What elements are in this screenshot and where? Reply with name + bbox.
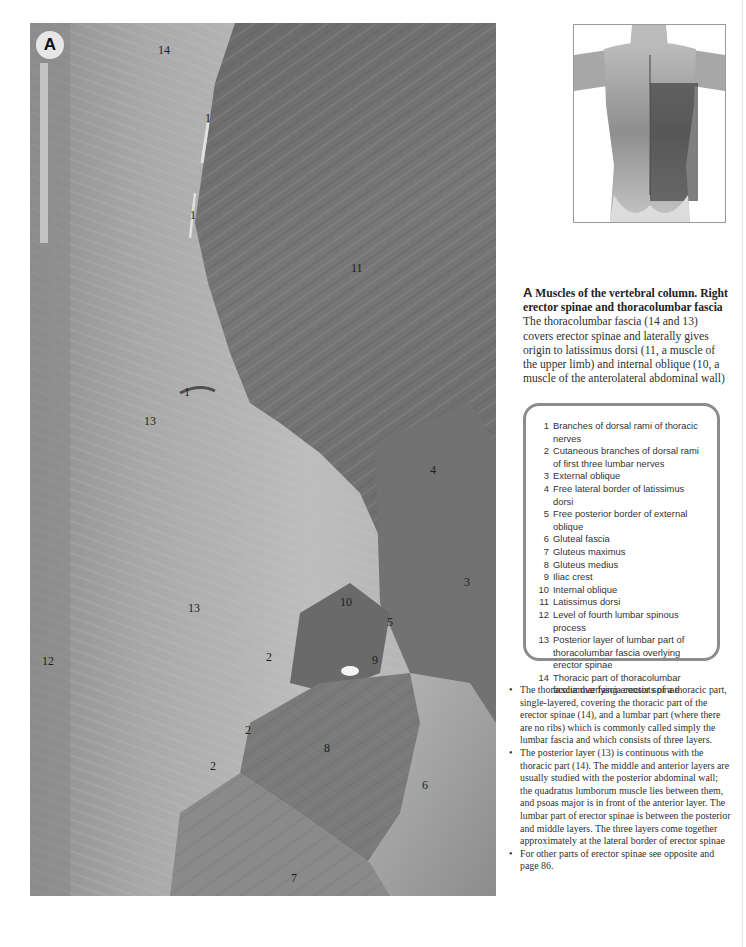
bullet-icon: • [509,684,513,697]
legend-item: 6Gluteal fascia [536,533,707,546]
notes-list: •The thoracolumbar fascia consists of a … [509,684,731,873]
label-1-b: 1 [190,209,196,221]
note-text: The posterior layer (13) is continuous w… [520,747,731,846]
legend-number: 5 [536,508,553,533]
label-8: 8 [324,742,330,754]
legend-item: 4Free lateral border of latissimus dorsi [536,483,707,508]
legend-number: 6 [536,533,553,546]
label-14-top: 14 [158,44,170,56]
label-11: 11 [351,262,363,274]
legend-item: 1Branches of dorsal rami of thoracic ner… [536,420,707,445]
note-item: •The thoracolumbar fascia consists of a … [509,684,731,747]
legend-text: Posterior layer of lumbar part of thorac… [553,634,707,672]
legend-text: Gluteus maximus [553,546,707,559]
legend-text: External oblique [553,470,707,483]
legend-item: 2Cutaneous branches of dorsal rami of fi… [536,445,707,470]
label-3: 3 [464,576,470,588]
legend-text: Free posterior border of external obliqu… [553,508,707,533]
legend-text: Free lateral border of latissimus dorsi [553,483,707,508]
legend-text: Gluteus medius [553,559,707,572]
figure-caption: A Muscles of the vertebral column. Right… [523,286,728,386]
dissection-illustration [30,23,496,896]
legend-number: 1 [536,420,553,445]
label-5: 5 [387,616,393,628]
legend-item: 8Gluteus medius [536,559,707,572]
label-13-b: 13 [188,602,200,614]
legend-number: 8 [536,559,553,572]
label-12: 12 [42,655,54,667]
note-text: The thoracolumbar fascia consists of a t… [520,684,727,745]
label-1-c: 1 [184,386,190,398]
label-2-a: 2 [266,651,272,663]
legend-item: 10Internal oblique [536,584,707,597]
note-item: •The posterior layer (13) is continuous … [509,747,731,848]
label-6: 6 [422,779,428,791]
note-item: •For other parts of erector spinae see o… [509,848,731,873]
legend-text: Gluteal fascia [553,533,707,546]
label-2-c: 2 [210,760,216,772]
label-1-a: 1 [205,112,211,124]
dissection-photo: A 14 1 1 11 1 13 4 3 10 5 13 12 2 9 2 8 … [30,23,496,896]
caption-title: Muscles of the vertebral column. Right e… [523,287,728,314]
legend-number: 13 [536,634,553,672]
label-10: 10 [340,596,352,608]
orientation-thumbnail [573,24,726,223]
label-13-a: 13 [144,415,156,427]
label-9: 9 [372,654,378,666]
caption-letter: A [523,285,532,300]
legend-number: 2 [536,445,553,470]
legend-item: 9Iliac crest [536,571,707,584]
legend-number: 12 [536,609,553,634]
label-4: 4 [430,464,436,476]
legend-item: 11Latissimus dorsi [536,596,707,609]
note-text: For other parts of erector spinae see op… [520,848,714,872]
left-edge-strip [30,23,70,896]
legend-number: 11 [536,596,553,609]
panel-letter-badge: A [36,31,64,59]
legend-text: Level of fourth lumbar spinous process [553,609,707,634]
bullet-icon: • [509,747,513,760]
legend-item: 13Posterior layer of lumbar part of thor… [536,634,707,672]
bullet-icon: • [509,848,513,861]
page-edge-line [742,0,743,947]
label-2-b: 2 [245,724,251,736]
legend-number: 4 [536,483,553,508]
legend-item: 3External oblique [536,470,707,483]
legend-text: Iliac crest [553,571,707,584]
legend-box: 1Branches of dorsal rami of thoracic ner… [523,403,720,661]
legend-text: Branches of dorsal rami of thoracic nerv… [553,420,707,445]
legend-number: 9 [536,571,553,584]
legend-text: Cutaneous branches of dorsal rami of fir… [553,445,707,470]
caption-heading: A Muscles of the vertebral column. Right… [523,287,728,314]
legend-item: 5Free posterior border of external obliq… [536,508,707,533]
torso-back-illustration [574,25,725,222]
label-7: 7 [291,872,297,884]
legend-number: 10 [536,584,553,597]
legend-item: 12Level of fourth lumbar spinous process [536,609,707,634]
legend-number: 7 [536,546,553,559]
highlighted-dissection-area [650,83,698,201]
legend-number: 3 [536,470,553,483]
legend-item: 7Gluteus maximus [536,546,707,559]
legend-text: Internal oblique [553,584,707,597]
caption-body: The thoracolumbar fascia (14 and 13) cov… [523,315,725,385]
legend-text: Latissimus dorsi [553,596,707,609]
